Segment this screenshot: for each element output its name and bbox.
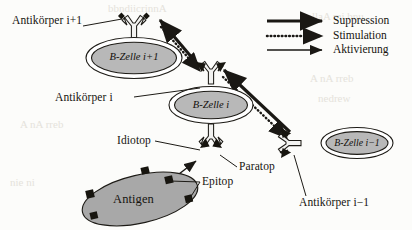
label-antibody-i-plus-1-text: Antikörper i+1 [12,14,82,26]
legend-label-aktivierung: Aktivierung [333,43,389,55]
label-antibody-i-plus-1: Antikörper i+1 [12,14,82,26]
b-cell-i-plus-1-label: B-Zelle i+1 [86,51,182,62]
leader-idiotope [155,141,200,150]
b-cell-i-label-text: B-Zelle i [193,99,229,110]
label-idiotope: Idiotop [117,134,151,146]
label-epitope-text: Epitop [202,175,233,187]
label-antibody-i-minus-1-text: Antikörper i−1 [299,196,369,208]
legend-label-aktivierung-text: Aktivierung [333,43,389,55]
label-antigen: Antigen [113,192,154,207]
legend-label-stimulation: Stimulation [333,29,387,41]
label-antibody-i-minus-1: Antikörper i−1 [299,196,369,208]
label-antigen-text: Antigen [113,192,154,206]
b-cell-i-plus-1-label-text: B-Zelle i+1 [110,51,159,62]
label-antibody-i-text: Antikörper i [55,91,113,103]
b-cell-i-label: B-Zelle i [169,99,253,110]
leader-paratope [220,155,237,167]
label-antibody-i: Antikörper i [55,91,113,103]
b-cell-i-minus-1-label-text: B-Zelle i−1 [334,137,380,148]
label-paratope-text: Paratop [239,160,275,172]
legend-label-stimulation-text: Stimulation [333,29,387,41]
leader-antibody-i-plus-1 [83,19,122,26]
figure-canvas: bbndiicrinnA I ollaA mi bnu A nA rreb ne… [0,0,412,230]
leader-antibody-i-minus-1 [294,155,306,196]
legend-label-suppression: Suppression [333,14,389,26]
label-epitope: Epitop [202,175,233,187]
b-cell-i-minus-1-label: B-Zelle i−1 [320,137,394,148]
label-paratope: Paratop [239,160,275,172]
label-idiotope-text: Idiotop [117,134,151,146]
legend-label-suppression-text: Suppression [333,14,389,26]
